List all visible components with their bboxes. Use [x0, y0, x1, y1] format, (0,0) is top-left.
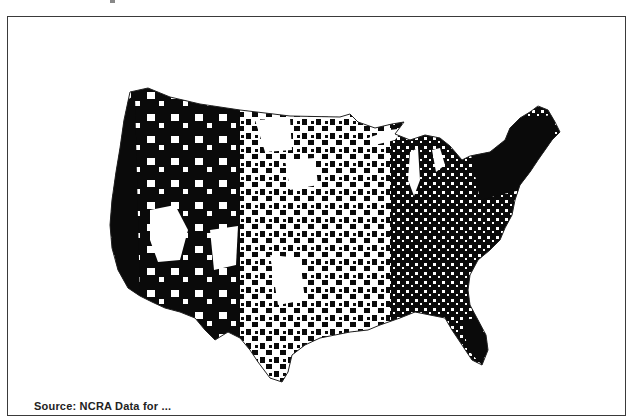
figure-caption: Source: NCRA Data for ... — [34, 400, 171, 412]
